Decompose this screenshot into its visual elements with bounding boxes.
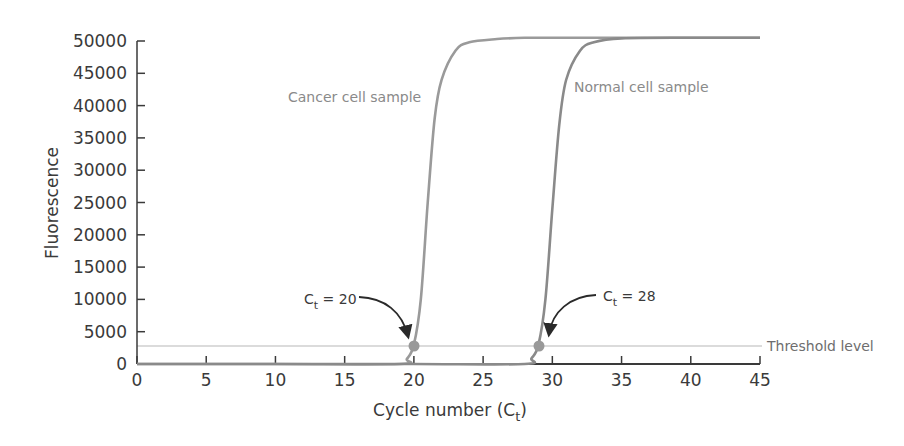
y-tick-label: 50000 bbox=[73, 31, 127, 51]
y-tick-label: 20000 bbox=[73, 225, 127, 245]
y-tick-label: 25000 bbox=[73, 193, 127, 213]
x-tick-label: 15 bbox=[334, 370, 356, 390]
ct-annotation-cancer: Ct = 20 bbox=[304, 291, 357, 312]
x-tick-label: 10 bbox=[265, 370, 287, 390]
y-tick-label: 5000 bbox=[84, 322, 127, 342]
y-tick-label: 0 bbox=[116, 354, 127, 374]
y-tick-label: 35000 bbox=[73, 128, 127, 148]
x-tick-label: 20 bbox=[403, 370, 425, 390]
y-tick-label: 10000 bbox=[73, 289, 127, 309]
arrow-cancer bbox=[359, 297, 408, 336]
x-tick-label: 25 bbox=[472, 370, 494, 390]
ct-marker-normal bbox=[534, 341, 545, 352]
y-tick-label: 45000 bbox=[73, 63, 127, 83]
x-axis-label: Cycle number (Ct) bbox=[373, 400, 527, 424]
cancer-cell-label: Cancer cell sample bbox=[288, 89, 421, 105]
x-axis: 051015202530354045 bbox=[132, 356, 771, 390]
y-tick-label: 30000 bbox=[73, 160, 127, 180]
x-tick-label: 0 bbox=[132, 370, 143, 390]
normal-cell-label: Normal cell sample bbox=[574, 79, 709, 95]
x-tick-label: 5 bbox=[201, 370, 212, 390]
x-tick-label: 45 bbox=[749, 370, 771, 390]
ct-annotation-normal: Ct = 28 bbox=[603, 288, 656, 309]
arrow-normal bbox=[549, 295, 596, 334]
y-tick-label: 40000 bbox=[73, 96, 127, 116]
x-tick-label: 40 bbox=[680, 370, 702, 390]
y-axis: 0500010000150002000025000300003500040000… bbox=[73, 31, 145, 374]
x-tick-label: 35 bbox=[611, 370, 633, 390]
ct-marker-cancer bbox=[409, 341, 420, 352]
x-tick-label: 30 bbox=[542, 370, 564, 390]
y-axis-label: Fluorescence bbox=[42, 147, 62, 259]
y-tick-label: 15000 bbox=[73, 257, 127, 277]
threshold-label: Threshold level bbox=[766, 338, 874, 354]
qpcr-chart: Threshold level 050001000015000200002500… bbox=[0, 0, 904, 446]
